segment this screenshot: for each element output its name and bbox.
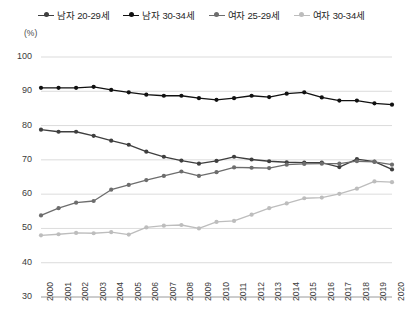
data-point[interactable] — [214, 170, 218, 174]
data-point[interactable] — [197, 96, 201, 100]
data-point[interactable] — [109, 188, 113, 192]
x-tick-2004: 2004 — [115, 282, 125, 301]
data-point[interactable] — [179, 158, 183, 162]
data-point[interactable] — [214, 98, 218, 102]
data-point[interactable] — [56, 130, 60, 134]
data-point[interactable] — [250, 166, 254, 170]
x-tick-2005: 2005 — [133, 282, 143, 301]
data-point[interactable] — [320, 162, 324, 166]
data-point[interactable] — [109, 88, 113, 92]
data-point[interactable] — [144, 178, 148, 182]
data-point[interactable] — [127, 233, 131, 237]
data-point[interactable] — [320, 95, 324, 99]
data-point[interactable] — [267, 206, 271, 210]
data-point[interactable] — [39, 213, 43, 217]
y-tick-90: 90 — [6, 85, 32, 95]
y-tick-50: 50 — [6, 222, 32, 232]
data-point[interactable] — [390, 167, 394, 171]
data-point[interactable] — [337, 98, 341, 102]
data-point[interactable] — [390, 163, 394, 167]
data-point[interactable] — [92, 85, 96, 89]
data-point[interactable] — [127, 143, 131, 147]
data-point[interactable] — [39, 233, 43, 237]
x-tick-2002: 2002 — [80, 282, 90, 301]
data-point[interactable] — [127, 90, 131, 94]
data-point[interactable] — [56, 232, 60, 236]
data-point[interactable] — [302, 162, 306, 166]
data-point[interactable] — [232, 165, 236, 169]
x-tick-2009: 2009 — [203, 282, 213, 301]
data-point[interactable] — [144, 225, 148, 229]
data-point[interactable] — [214, 220, 218, 224]
series-line-2 — [41, 161, 392, 215]
x-tick-2018: 2018 — [361, 282, 371, 301]
data-point[interactable] — [355, 98, 359, 102]
data-point[interactable] — [372, 101, 376, 105]
x-tick-2008: 2008 — [185, 282, 195, 301]
data-point[interactable] — [56, 86, 60, 90]
data-point[interactable] — [162, 224, 166, 228]
data-point[interactable] — [267, 166, 271, 170]
data-point[interactable] — [372, 160, 376, 164]
data-point[interactable] — [144, 150, 148, 154]
data-point[interactable] — [197, 162, 201, 166]
data-point[interactable] — [74, 231, 78, 235]
data-point[interactable] — [127, 183, 131, 187]
data-point[interactable] — [162, 155, 166, 159]
data-point[interactable] — [232, 219, 236, 223]
data-point[interactable] — [285, 163, 289, 167]
data-point[interactable] — [74, 86, 78, 90]
data-point[interactable] — [39, 86, 43, 90]
data-point[interactable] — [56, 206, 60, 210]
data-point[interactable] — [302, 90, 306, 94]
data-point[interactable] — [197, 226, 201, 230]
y-tick-80: 80 — [6, 120, 32, 130]
y-tick-70: 70 — [6, 154, 32, 164]
data-point[interactable] — [320, 195, 324, 199]
data-point[interactable] — [285, 92, 289, 96]
data-point[interactable] — [179, 223, 183, 227]
x-tick-2020: 2020 — [396, 282, 406, 301]
x-tick-2006: 2006 — [150, 282, 160, 301]
data-point[interactable] — [109, 230, 113, 234]
data-point[interactable] — [267, 95, 271, 99]
data-point[interactable] — [302, 196, 306, 200]
x-tick-2015: 2015 — [308, 282, 318, 301]
data-point[interactable] — [390, 103, 394, 107]
data-point[interactable] — [250, 94, 254, 98]
data-point[interactable] — [390, 180, 394, 184]
data-point[interactable] — [232, 155, 236, 159]
data-point[interactable] — [337, 162, 341, 166]
data-point[interactable] — [162, 174, 166, 178]
data-point[interactable] — [179, 94, 183, 98]
y-tick-30: 30 — [6, 291, 32, 301]
data-point[interactable] — [179, 169, 183, 173]
data-point[interactable] — [355, 187, 359, 191]
x-tick-2016: 2016 — [326, 282, 336, 301]
x-tick-2010: 2010 — [221, 282, 231, 301]
series-1 — [39, 85, 394, 107]
data-point[interactable] — [109, 139, 113, 143]
x-tick-2013: 2013 — [273, 282, 283, 301]
data-point[interactable] — [197, 174, 201, 178]
data-point[interactable] — [285, 201, 289, 205]
data-point[interactable] — [92, 231, 96, 235]
data-point[interactable] — [337, 192, 341, 196]
data-point[interactable] — [92, 199, 96, 203]
data-point[interactable] — [355, 159, 359, 163]
data-point[interactable] — [372, 179, 376, 183]
data-point[interactable] — [162, 94, 166, 98]
data-point[interactable] — [250, 213, 254, 217]
data-point[interactable] — [144, 93, 148, 97]
data-point[interactable] — [74, 201, 78, 205]
data-point[interactable] — [250, 157, 254, 161]
data-point[interactable] — [39, 128, 43, 132]
data-point[interactable] — [74, 130, 78, 134]
data-point[interactable] — [267, 159, 271, 163]
y-tick-40: 40 — [6, 257, 32, 267]
data-point[interactable] — [232, 96, 236, 100]
data-point[interactable] — [214, 159, 218, 163]
data-point[interactable] — [92, 134, 96, 138]
y-tick-60: 60 — [6, 188, 32, 198]
